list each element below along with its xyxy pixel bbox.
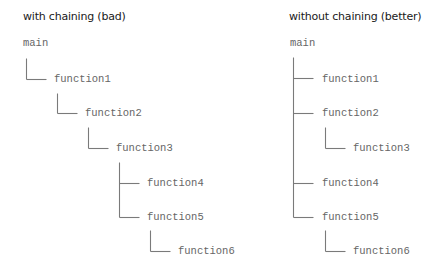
node-function3: function3: [116, 142, 173, 154]
chaining-bad-title: with chaining (bad): [23, 10, 126, 23]
node-function2: function2: [85, 107, 142, 119]
node-function5: function5: [147, 211, 204, 223]
node-function6: function6: [353, 245, 410, 257]
node-function1: function1: [322, 73, 379, 85]
connector-lines: [0, 0, 430, 277]
node-function4: function4: [322, 177, 379, 189]
node-function3: function3: [353, 142, 410, 154]
node-function4: function4: [147, 177, 204, 189]
node-main: main: [290, 37, 315, 49]
node-function2: function2: [322, 107, 379, 119]
node-function5: function5: [322, 211, 379, 223]
call-tree-comparison: with chaining (bad) without chaining (be…: [0, 0, 430, 277]
chaining-better-title: without chaining (better): [289, 10, 421, 23]
node-function1: function1: [54, 73, 111, 85]
node-function6: function6: [178, 245, 235, 257]
node-main: main: [23, 37, 48, 49]
